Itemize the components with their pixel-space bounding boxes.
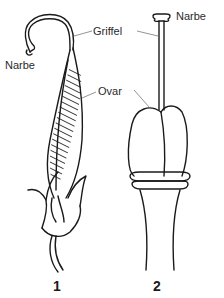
label-narbe-2: Narbe <box>176 11 206 22</box>
label-narbe-1: Narbe <box>5 60 35 71</box>
stigma-2 <box>153 14 170 21</box>
style-1 <box>25 15 73 53</box>
panel-number-1: 1 <box>53 279 61 293</box>
stalk-2 <box>140 190 147 270</box>
calyx-1 <box>28 189 47 228</box>
pistil-diagram <box>0 0 224 298</box>
pistil-2 <box>128 14 190 270</box>
label-ovar: Ovar <box>98 86 122 97</box>
pistil-1 <box>25 15 90 273</box>
ovary-2 <box>128 108 161 176</box>
panel-number-2: 2 <box>153 279 161 293</box>
receptacle-rings <box>130 172 190 181</box>
label-griffel: Griffel <box>93 26 122 37</box>
